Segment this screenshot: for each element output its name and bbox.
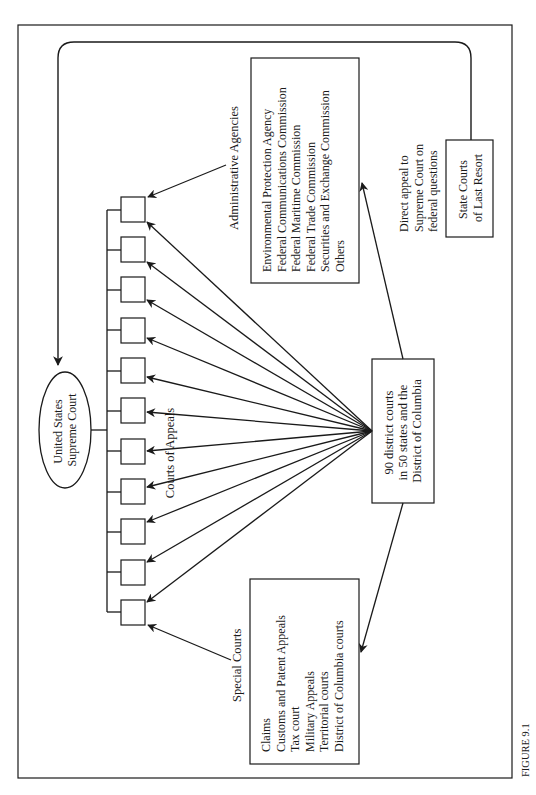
- figure-label: FIGURE 9.1: [520, 723, 531, 777]
- court-system-diagram: United States Supreme Court: [0, 0, 536, 795]
- special-courts-label: Special Courts: [230, 629, 244, 702]
- state-courts-node: State Courts of Last Resort: [446, 140, 493, 237]
- district-courts-node: 90 district courts in 50 states and the …: [372, 359, 434, 503]
- special-court-item: Customs and Patent Appeals: [274, 615, 288, 752]
- admin-agency-item: Federal Communications Commission: [275, 87, 289, 272]
- appeals-court-box: [107, 439, 145, 464]
- appeals-court-box: [107, 277, 145, 302]
- special-court-item: Claims: [259, 718, 273, 752]
- special-courts-box: Claims Customs and Patent Appeals Tax co…: [250, 579, 359, 764]
- district-to-special-arrow: [361, 503, 403, 652]
- courts-of-appeals-label: Courts of Appeals: [163, 408, 177, 498]
- special-court-item: Tax court: [288, 706, 302, 752]
- admin-agency-item: Environmental Protection Agency: [260, 109, 274, 272]
- admin-agencies-label: Administrative Agencies: [227, 106, 241, 230]
- appeals-court-box: [107, 358, 145, 383]
- supreme-court-line2: Supreme Court: [65, 393, 79, 467]
- appeals-court-box: [107, 318, 145, 343]
- appeals-court-box: [107, 600, 145, 625]
- state-courts-line2: of Last Resort: [471, 153, 485, 222]
- appeals-court-box: [107, 398, 145, 423]
- district-courts-line1: 90 district courts: [382, 390, 396, 474]
- courts-of-appeals-boxes: [107, 197, 145, 625]
- appeals-court-box: [107, 560, 145, 585]
- admin-agency-item: Federal Trade Commission: [304, 142, 318, 272]
- admin-agency-item: Others: [333, 240, 347, 272]
- admin-agency-item: Securities and Exchange Commission: [318, 90, 332, 272]
- svg-text:Environmental Protection Agenc: Environmental Protection Agency Federal …: [260, 84, 347, 272]
- direct-appeal-label: Direct appeal to Supreme Court on federa…: [397, 141, 440, 232]
- district-courts-line2: in 50 states and the: [396, 384, 410, 480]
- svg-text:Claims Customs and Paten: Claims Customs and Patent Appeals Tax co…: [259, 612, 346, 752]
- special-court-item: Military Appeals: [303, 671, 317, 752]
- svg-text:90 district courts in 50: 90 district courts in 50 states and the …: [382, 379, 424, 483]
- district-courts-line3: District of Columbia: [410, 379, 424, 483]
- appeals-court-box: [107, 479, 145, 504]
- special-court-item: Territorial courts: [317, 671, 331, 752]
- appeals-court-box: [107, 197, 145, 222]
- admin-agency-item: Federal Maritime Commission: [289, 125, 303, 272]
- admin-agencies-arrow: [148, 165, 226, 197]
- special-courts-arrow: [148, 625, 231, 660]
- special-court-item: District of Columbia courts: [332, 620, 346, 752]
- state-courts-line1: State Courts: [456, 160, 470, 219]
- supreme-court-node: United States Supreme Court: [39, 372, 91, 488]
- direct-appeal-line2: Supreme Court on: [412, 144, 426, 232]
- svg-text:State Courts of Last Res: State Courts of Last Resort: [456, 153, 485, 222]
- district-to-appeals-arrows: [147, 222, 372, 602]
- appeals-court-box: [107, 519, 145, 544]
- appeals-court-box: [107, 237, 145, 262]
- supreme-court-line1: United States: [51, 399, 65, 464]
- admin-agencies-box: Environmental Protection Agency Federal …: [251, 58, 359, 283]
- direct-appeal-line1: Direct appeal to: [397, 155, 411, 232]
- direct-appeal-line3: federal questions: [426, 150, 440, 232]
- svg-text:United States Supreme Co: United States Supreme Court: [51, 393, 79, 467]
